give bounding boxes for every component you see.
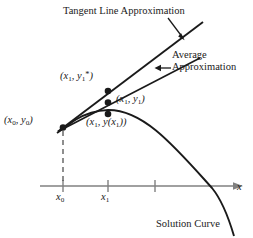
tangent-line-approximation-label: Tangent Line Approximation [63,5,185,17]
solution-curve-label: Solution Curve [156,218,220,230]
tangent-label-leader-arrow [168,18,185,40]
point-label-exact: (x1, y(x1)) [86,116,126,129]
average-approximation-label-line2: Approximation [172,61,236,73]
point-marker-tangent [105,88,112,95]
average-approximation-label-line1: Average [172,49,236,61]
point-label-tangent: (x1, y1*) [60,70,93,83]
figure-canvas [0,0,253,238]
average-leader-arrowhead [155,65,162,71]
average-approximation-label: Average Approximation [172,49,236,73]
average-label-leader-arrow [155,65,172,71]
point-marker-initial [60,124,67,131]
tick-label-x0: x0 [56,191,64,204]
tangent-line-approximation-figure: Tangent Line Approximation Average Appro… [0,0,253,238]
point-label-average: (x1, y1) [116,93,145,106]
x-axis-label: x [237,181,242,193]
point-marker-average [105,99,112,106]
point-label-initial: (x0, y0) [4,114,33,127]
tick-label-x1: x1 [101,191,109,204]
